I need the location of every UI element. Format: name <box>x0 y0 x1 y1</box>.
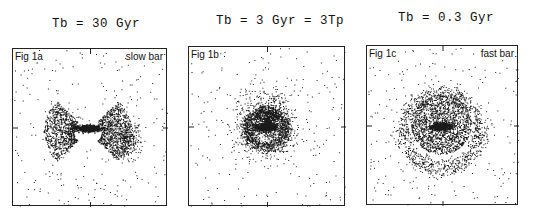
particle-plot-slow-bar <box>13 49 168 207</box>
panel-a-label: Fig 1a <box>15 51 43 62</box>
panel-b-label: Fig 1b <box>191 49 219 60</box>
panel-a-annotation: slow bar <box>126 51 163 62</box>
panel-b-scatter: Fig 1b <box>188 46 345 206</box>
panel-a-scatter: Fig 1a slow bar <box>12 48 167 206</box>
panel-c-label: Fig 1c <box>369 48 396 59</box>
panel-c-annotation: fast bar <box>481 48 514 59</box>
particle-plot-intermediate-bar <box>189 47 346 207</box>
particle-plot-fast-bar <box>367 46 519 206</box>
panel-c-scatter: Fig 1c fast bar <box>366 45 518 205</box>
panel-b-title: Tb = 3 Gyr = 3Tp <box>216 14 344 28</box>
panel-c-title: Tb = 0.3 Gyr <box>398 11 494 25</box>
panel-a-title: Tb = 30 Gyr <box>52 17 140 31</box>
